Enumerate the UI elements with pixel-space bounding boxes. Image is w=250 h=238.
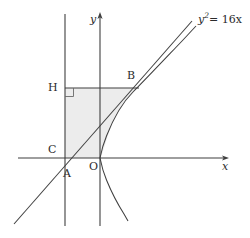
parabola-figure: H B C A O y x y2= 16x <box>0 0 250 238</box>
y-axis-label: y <box>90 14 96 25</box>
geometry-canvas <box>0 0 250 238</box>
point-label-b: B <box>127 70 135 81</box>
point-label-h: H <box>48 82 58 93</box>
point-label-a: A <box>63 168 71 179</box>
point-label-c: C <box>48 144 56 155</box>
equation-rest: = 16x <box>209 13 242 26</box>
equation-label: y2= 16x <box>198 12 242 25</box>
tangent-line <box>14 21 192 224</box>
x-axis-label: x <box>222 161 228 172</box>
parabola-lower-branch <box>100 158 128 221</box>
point-label-o: O <box>89 161 98 172</box>
